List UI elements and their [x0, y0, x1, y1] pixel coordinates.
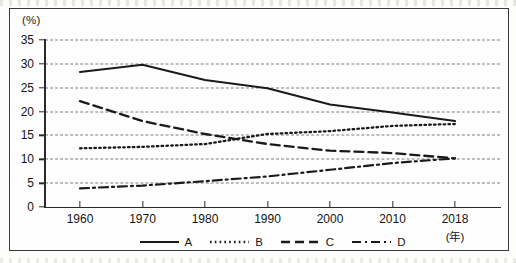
scan-artifact-bottom [0, 258, 516, 263]
chart-screenshot: (%) 05101520253035 196019701980199020002… [0, 0, 516, 263]
x-tick-label-2000: 2000 [317, 212, 344, 226]
scan-artifact-top [0, 0, 516, 6]
x-tick-label-1980: 1980 [192, 212, 219, 226]
y-tick-label-20: 20 [8, 105, 34, 119]
x-tick-label-1960: 1960 [67, 212, 94, 226]
y-tick-label-30: 30 [8, 57, 34, 71]
legend-item-C[interactable]: C [280, 236, 334, 248]
y-tick-label-5: 5 [8, 176, 34, 190]
x-tick-mark-1970 [142, 201, 143, 207]
plot-area [44, 40, 500, 207]
y-tick-label-0: 0 [8, 200, 34, 214]
x-tick-mark-1990 [267, 201, 268, 207]
y-tick-label-15: 15 [8, 128, 34, 142]
y-tick-label-10: 10 [8, 152, 34, 166]
x-tick-label-2018: 2018 [442, 212, 469, 226]
x-tick-label-2010: 2010 [379, 212, 406, 226]
legend-item-B[interactable]: B [209, 236, 263, 248]
chart-legend: ABCD [44, 236, 500, 248]
legend-label-A: A [185, 236, 193, 248]
y-tick-label-25: 25 [8, 81, 34, 95]
legend-label-B: B [255, 236, 263, 248]
legend-label-C: C [326, 236, 334, 248]
series-line-D [80, 158, 455, 188]
legend-item-A[interactable]: A [139, 236, 193, 248]
legend-swatch-B-icon [209, 237, 250, 247]
y-axis-unit-label: (%) [22, 14, 41, 26]
x-tick-label-1990: 1990 [254, 212, 281, 226]
series-line-B [80, 124, 455, 148]
legend-swatch-C-icon [280, 237, 321, 247]
x-tick-mark-2010 [392, 201, 393, 207]
legend-item-D[interactable]: D [351, 236, 405, 248]
series-line-C [80, 101, 455, 158]
legend-swatch-A-icon [139, 237, 180, 247]
y-tick-label-35: 35 [8, 33, 34, 47]
legend-label-D: D [397, 236, 405, 248]
x-tick-mark-2018 [454, 201, 455, 207]
x-tick-mark-1980 [204, 201, 205, 207]
legend-swatch-D-icon [351, 237, 392, 247]
series-lines-svg [44, 40, 500, 207]
x-tick-mark-1960 [79, 201, 80, 207]
x-tick-label-1970: 1970 [129, 212, 156, 226]
x-tick-mark-2000 [329, 201, 330, 207]
series-line-A [80, 65, 455, 121]
